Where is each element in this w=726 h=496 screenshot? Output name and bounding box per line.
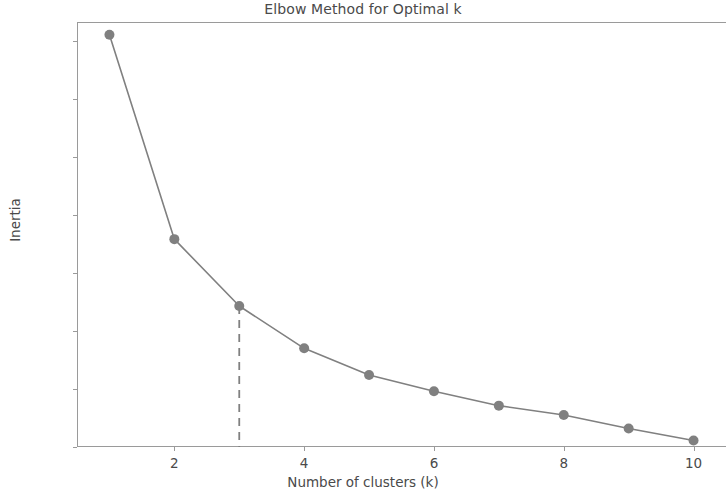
inertia-line (109, 35, 693, 441)
x-tick-label: 4 (300, 455, 309, 471)
data-point (169, 234, 179, 244)
x-tick-label: 6 (430, 455, 439, 471)
data-point (624, 423, 634, 433)
series-svg (77, 22, 726, 447)
y-axis-label: Inertia (7, 180, 23, 260)
chart-title: Elbow Method for Optimal k (0, 1, 726, 17)
x-tick-label: 10 (685, 455, 702, 471)
x-tick-label: 2 (170, 455, 179, 471)
x-tick-mark (564, 447, 565, 451)
chart-figure: Elbow Method for Optimal k Inertia 50075… (0, 0, 726, 496)
data-point (429, 386, 439, 396)
data-point (689, 436, 699, 446)
data-point (364, 370, 374, 380)
data-point (104, 30, 114, 40)
data-point (559, 410, 569, 420)
y-tick-mark (73, 447, 77, 448)
x-axis-label: Number of clusters (k) (0, 474, 726, 490)
data-point (494, 401, 504, 411)
data-point (234, 301, 244, 311)
plot-area (77, 22, 726, 447)
x-tick-mark (694, 447, 695, 451)
x-tick-mark (304, 447, 305, 451)
x-tick-mark (174, 447, 175, 451)
x-tick-label: 8 (559, 455, 568, 471)
data-point (299, 343, 309, 353)
x-tick-mark (434, 447, 435, 451)
